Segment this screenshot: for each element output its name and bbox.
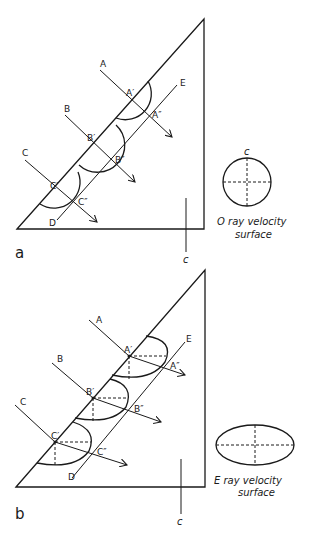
caption-e-ray-line2: surface <box>238 487 275 498</box>
wavefront-de-a <box>57 85 177 220</box>
label-wavefront-d: D <box>49 218 56 228</box>
label-ray-b-b: B <box>57 354 63 364</box>
label-exit-b-b: B″ <box>134 404 144 414</box>
label-surface-axis-a: c <box>244 146 250 157</box>
label-wavefront-d-b: D <box>68 472 75 482</box>
label-exit-a: A″ <box>152 110 162 120</box>
birefringence-diagram: A B C A′ B′ C′ A″ B″ C″ D E c c O ray ve… <box>0 0 313 538</box>
label-exit-c-b: C″ <box>97 447 107 457</box>
label-exit-b: B″ <box>115 155 125 165</box>
o-ray-velocity-surface: c O ray velocity surface <box>217 146 288 240</box>
crystal-prism-a <box>17 19 204 229</box>
label-entry-a: A′ <box>126 88 134 98</box>
label-entry-b: B′ <box>87 133 95 143</box>
figure-a: A B C A′ B′ C′ A″ B″ C″ D E c c O ray ve… <box>15 19 288 265</box>
wavelet-b-b <box>75 379 128 420</box>
label-optic-axis-b: c <box>177 516 183 527</box>
label-ray-a-b: A <box>96 315 103 325</box>
panel-label-a: a <box>15 244 24 262</box>
ray-b-b-refracted <box>93 398 161 422</box>
label-entry-c: C′ <box>50 181 58 191</box>
label-entry-b-b: B′ <box>86 387 94 397</box>
panel-label-b: b <box>15 505 25 523</box>
caption-o-ray-line2: surface <box>235 229 272 240</box>
ray-c-b-incident <box>15 405 55 442</box>
label-entry-c-b: C′ <box>51 431 59 441</box>
label-exit-c: C″ <box>78 197 88 207</box>
figure-b: A B C A′ B′ C′ A″ B″ C″ D E c E ray velo… <box>15 270 294 527</box>
caption-o-ray-line1: O ray velocity <box>217 216 288 227</box>
label-ray-c: C <box>22 148 28 158</box>
label-optic-axis-a: c <box>183 254 189 265</box>
ray-a-b-incident <box>89 320 129 356</box>
wavelet-a-a <box>116 81 151 120</box>
caption-e-ray-line1: E ray velocity <box>214 475 283 486</box>
e-ray-velocity-surface: E ray velocity surface <box>214 425 294 498</box>
label-ray-b: B <box>64 104 70 114</box>
label-ray-a: A <box>100 59 107 69</box>
label-wavefront-e-b: E <box>186 334 192 344</box>
label-wavefront-e: E <box>180 78 186 88</box>
wavelet-a-b <box>112 336 168 377</box>
label-ray-c-b: C <box>20 397 26 407</box>
wavelet-c-b <box>37 422 91 465</box>
label-entry-a-b: A′ <box>124 345 132 355</box>
label-exit-a-b: A″ <box>170 361 180 371</box>
